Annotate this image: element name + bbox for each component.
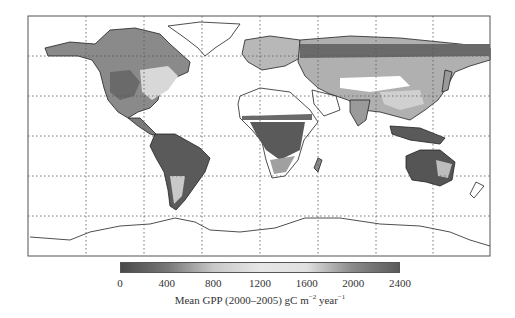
world-gpp-map <box>0 0 515 260</box>
colorbar-tick-label: 2400 <box>389 277 411 289</box>
colorbar-tick-label: 800 <box>205 277 222 289</box>
colorbar-label-mid: year <box>316 294 338 306</box>
colorbar-tick-label: 1200 <box>249 277 271 289</box>
colorbar <box>120 262 400 273</box>
colorbar-tick-label: 0 <box>117 277 123 289</box>
colorbar-label-exp1: −2 <box>309 293 316 301</box>
colorbar-tick-label: 2000 <box>342 277 364 289</box>
colorbar-tick-label: 400 <box>158 277 175 289</box>
colorbar-label-main: Mean GPP (2000–2005) gC m <box>175 294 309 306</box>
colorbar-label: Mean GPP (2000–2005) gC m−2 year−1 <box>175 293 346 306</box>
colorbar-label-exp2: −1 <box>338 293 345 301</box>
colorbar-tick-label: 1600 <box>296 277 318 289</box>
